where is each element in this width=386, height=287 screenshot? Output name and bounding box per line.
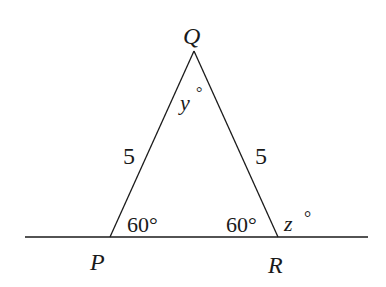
angle-degree-y: ° xyxy=(196,84,202,101)
angle-variable-y: y xyxy=(178,90,190,115)
triangle-diagram: Q P R 5 5 60° 60° y ° z ° xyxy=(0,0,386,287)
vertex-label-p: P xyxy=(89,249,105,275)
angle-label-p: 60° xyxy=(127,212,158,237)
vertex-label-r: R xyxy=(267,252,283,278)
side-length-pq: 5 xyxy=(123,143,135,169)
side-length-qr: 5 xyxy=(255,143,267,169)
vertex-label-q: Q xyxy=(183,23,200,49)
diagram-canvas: Q P R 5 5 60° 60° y ° z ° xyxy=(0,0,386,287)
angle-label-r: 60° xyxy=(226,212,257,237)
angle-variable-z: z xyxy=(283,211,293,236)
angle-degree-z: ° xyxy=(304,208,311,228)
